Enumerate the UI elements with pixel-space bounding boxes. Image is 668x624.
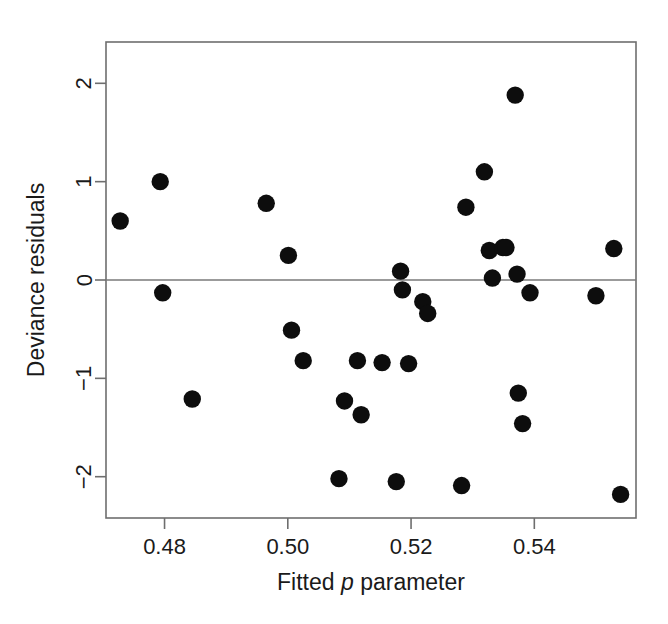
data-point	[373, 354, 390, 371]
y-tick-label: −1	[72, 366, 97, 391]
x-axis-tick-labels: 0.480.500.520.54	[143, 534, 556, 559]
data-point	[514, 415, 531, 432]
data-point	[283, 321, 300, 338]
x-axis-title: Fitted p parameter	[277, 569, 465, 595]
data-point	[419, 305, 436, 322]
data-point	[457, 199, 474, 216]
data-point	[507, 86, 524, 103]
x-axis-title-before: Fitted	[277, 569, 341, 595]
data-point	[111, 212, 128, 229]
x-axis-title-after: parameter	[354, 569, 466, 595]
data-point	[258, 195, 275, 212]
data-point	[394, 281, 411, 298]
data-points-layer	[111, 86, 629, 503]
data-point	[453, 477, 470, 494]
data-point	[152, 173, 169, 190]
data-point	[154, 284, 171, 301]
data-point	[352, 406, 369, 423]
data-point	[349, 352, 366, 369]
y-tick-label: 2	[72, 77, 97, 89]
data-point	[336, 392, 353, 409]
data-point	[388, 473, 405, 490]
y-tick-label: 0	[72, 274, 97, 286]
x-axis-ticks	[165, 518, 535, 529]
data-point	[184, 390, 201, 407]
x-tick-label: 0.48	[143, 534, 186, 559]
data-point	[508, 265, 525, 282]
x-tick-label: 0.52	[390, 534, 433, 559]
y-axis-ticks	[95, 83, 106, 476]
y-axis-tick-labels: 210−1−2	[72, 77, 97, 489]
data-point	[392, 262, 409, 279]
data-point	[400, 355, 417, 372]
y-tick-label: −2	[72, 464, 97, 489]
data-point	[497, 239, 514, 256]
data-point	[484, 269, 501, 286]
deviance-residuals-scatter-figure: 210−1−2 0.480.500.520.54 Deviance residu…	[0, 0, 668, 624]
data-point	[510, 384, 527, 401]
data-point	[612, 486, 629, 503]
x-axis-title-italic-p: p	[340, 569, 354, 595]
data-point	[476, 163, 493, 180]
y-tick-label: 1	[72, 176, 97, 188]
plot-canvas: 210−1−2 0.480.500.520.54 Deviance residu…	[0, 0, 668, 624]
data-point	[295, 352, 312, 369]
data-point	[587, 287, 604, 304]
data-point	[280, 247, 297, 264]
data-point	[330, 470, 347, 487]
x-tick-label: 0.50	[266, 534, 309, 559]
data-point	[521, 284, 538, 301]
data-point	[605, 240, 622, 257]
y-axis-title: Deviance residuals	[23, 183, 49, 377]
x-tick-label: 0.54	[513, 534, 556, 559]
